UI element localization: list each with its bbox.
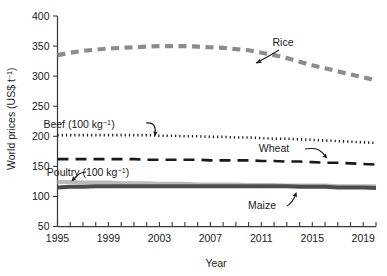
- chart-figure: World prices (US$ t−1) 50100150200250300…: [0, 0, 387, 276]
- y-axis-title: World prices (US$ t−1): [5, 67, 17, 170]
- y-axis-title-superscript: −1: [5, 71, 14, 79]
- y-tick-label-50: 50: [38, 220, 50, 232]
- y-tick-label-350: 350: [32, 40, 50, 52]
- x-axis-tick-labels: 1995199920032007201120152019: [46, 232, 375, 244]
- series-line-maize: [58, 186, 377, 188]
- annotation-arrowhead-maize: [293, 191, 299, 197]
- x-tick-label-2007: 2007: [199, 232, 223, 244]
- world-prices-line-chart: World prices (US$ t−1) 50100150200250300…: [0, 0, 387, 276]
- x-tick-label-2019: 2019: [352, 232, 376, 244]
- y-tick-label-100: 100: [32, 190, 50, 202]
- x-tick-label-1995: 1995: [46, 232, 70, 244]
- annotation-maize: Maize: [248, 191, 299, 211]
- annotation-arrowhead-rice: [255, 59, 262, 66]
- x-tick-label-1999: 1999: [97, 232, 121, 244]
- y-tick-label-200: 200: [32, 130, 50, 142]
- y-tick-label-400: 400: [32, 10, 50, 22]
- svg-text:World prices (US$ t−1): World prices (US$ t−1): [5, 67, 17, 170]
- annotation-label-beef: Beef (100 kg−1): [43, 118, 114, 130]
- series-line-beef: [58, 135, 377, 143]
- series-line-wheat: [58, 159, 377, 164]
- annotation-label-maize: Maize: [248, 199, 276, 211]
- x-tick-label-2003: 2003: [148, 232, 172, 244]
- annotation-label-rice: Rice: [272, 36, 293, 48]
- annotation-label-poultry: Poultry (100 kg−1): [47, 166, 129, 178]
- y-tick-label-250: 250: [32, 100, 50, 112]
- x-tick-label-2011: 2011: [250, 232, 273, 244]
- annotation-wheat: Wheat: [259, 142, 329, 160]
- y-axis-title-prefix: World prices (US$ t: [5, 79, 17, 170]
- x-tick-label-2015: 2015: [301, 232, 325, 244]
- y-axis-title-suffix: ): [5, 67, 17, 71]
- series-line-rice: [58, 46, 377, 80]
- x-axis-title: Year: [205, 257, 227, 269]
- y-tick-label-300: 300: [32, 70, 50, 82]
- annotation-label-wheat: Wheat: [259, 142, 289, 154]
- x-axis-ticks: [58, 222, 377, 227]
- annotation-leader-wheat: [305, 149, 326, 157]
